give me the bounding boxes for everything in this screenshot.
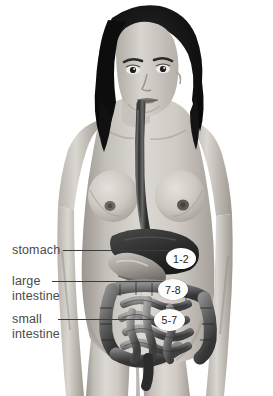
badge-large-intestine-time: 7-8 [158, 279, 188, 300]
label-small-intestine: small intestine [12, 312, 60, 342]
label-large-intestine: large intestine [12, 274, 60, 304]
leader-line-small-intestine [58, 319, 163, 320]
label-large-intestine-line-1: large [12, 274, 60, 289]
leader-line-large-intestine [52, 281, 171, 282]
label-large-intestine-line-2: intestine [12, 289, 60, 304]
label-stomach-line-1: stomach [12, 243, 60, 258]
badge-stomach-time: 1-2 [166, 248, 196, 269]
badge-stomach-value: 1-2 [173, 253, 189, 265]
badge-small-intestine-time: 5-7 [154, 309, 185, 331]
leader-line-stomach [63, 250, 171, 251]
badge-small-intestine-value: 5-7 [162, 314, 178, 326]
rectum-organ [146, 358, 149, 386]
label-stomach: stomach [12, 243, 60, 258]
label-small-intestine-line-1: small [12, 312, 60, 327]
label-small-intestine-line-2: intestine [12, 327, 60, 342]
digestive-tract-figure: stomach large intestine small intestine … [0, 0, 273, 396]
badge-large-intestine-value: 7-8 [165, 284, 181, 296]
